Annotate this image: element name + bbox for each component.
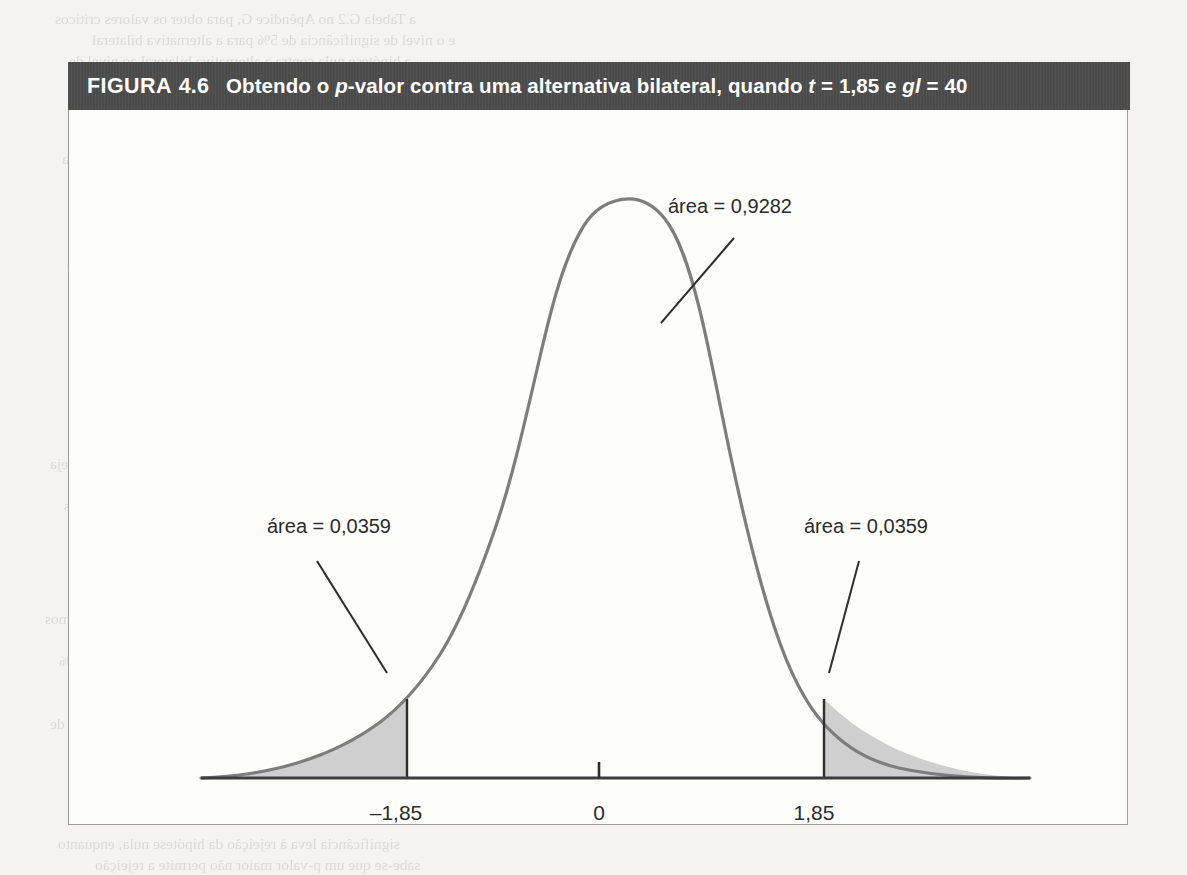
bleed-text-line: significância leva à rejeição da hipótes… bbox=[58, 835, 400, 853]
figure-number: 4.6 bbox=[179, 74, 209, 98]
x-tick-label-positive: 1,85 bbox=[759, 801, 869, 825]
x-tick-label-zero: 0 bbox=[544, 801, 654, 825]
figure-title: FIGURA4.6Obtendo o p-valor contra uma al… bbox=[68, 74, 967, 99]
t-distribution-curve bbox=[201, 199, 1030, 778]
left-tail-area-annotation: área = 0,0359 bbox=[267, 515, 391, 538]
right-tail-shaded-region bbox=[824, 699, 1030, 778]
figure-caption: Obtendo o p-valor contra uma alternativa… bbox=[226, 74, 967, 97]
bleed-text-line: a Tabela G.2 no Apêndice G, para obter o… bbox=[55, 10, 416, 28]
x-tick-label-negative: –1,85 bbox=[341, 801, 451, 825]
left-annotation-leader-line bbox=[317, 561, 387, 673]
center-annotation-leader-line bbox=[661, 238, 734, 323]
left-tail-shaded-region bbox=[201, 699, 407, 778]
bleed-text-line: sabe-se que um p-valor maior não permite… bbox=[95, 856, 420, 874]
figure-label: FIGURA bbox=[87, 74, 172, 98]
figure-header-bar: FIGURA4.6Obtendo o p-valor contra uma al… bbox=[68, 62, 1130, 110]
distribution-plot-svg bbox=[69, 111, 1127, 824]
bleed-text-line: e o nível de significância de 5% para a … bbox=[92, 31, 455, 49]
plot-area: área = 0,9282 área = 0,0359 área = 0,035… bbox=[69, 111, 1127, 824]
center-area-annotation: área = 0,9282 bbox=[668, 195, 792, 218]
right-tail-area-annotation: área = 0,0359 bbox=[804, 515, 928, 538]
figure-frame: FIGURA4.6Obtendo o p-valor contra uma al… bbox=[68, 62, 1128, 825]
right-annotation-leader-line bbox=[829, 561, 859, 673]
